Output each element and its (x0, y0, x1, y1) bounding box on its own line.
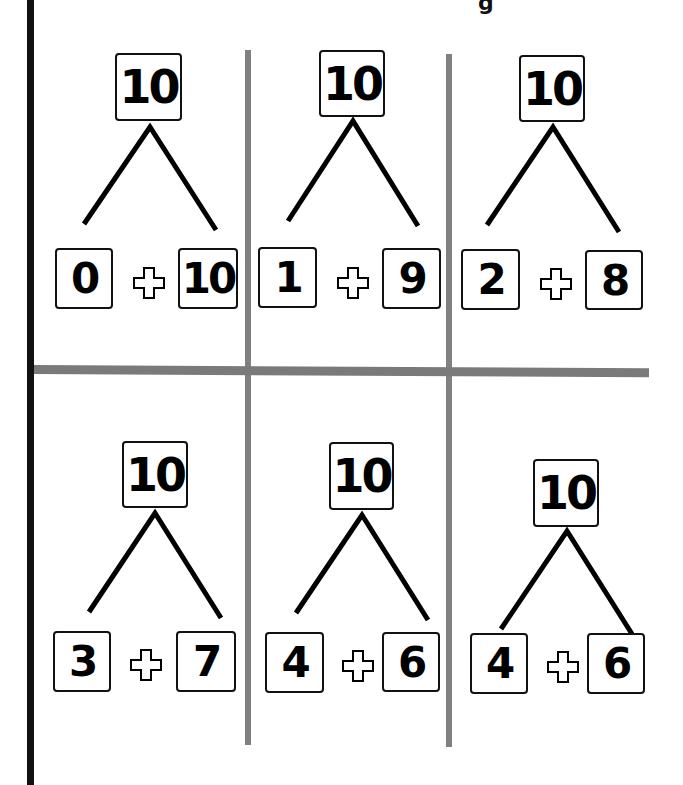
plus-icon (129, 648, 163, 682)
whole-box: 10 (319, 50, 385, 117)
part-b-box: 7 (176, 631, 236, 692)
part-b-box: 6 (587, 633, 645, 694)
plus-icon (132, 266, 166, 300)
grid-divider-vertical-2 (446, 54, 452, 747)
grid-divider-horizontal (34, 365, 649, 377)
plus-icon (336, 266, 370, 300)
part-b-box: 9 (382, 248, 441, 309)
part-b-box: 8 (585, 250, 643, 310)
grid-divider-vertical-1 (245, 50, 251, 745)
part-a-box: 0 (55, 248, 113, 309)
part-a-box: 4 (265, 632, 324, 693)
whole-box: 10 (519, 55, 585, 122)
plus-icon (546, 650, 580, 684)
whole-box: 10 (115, 53, 182, 121)
whole-box: 10 (533, 459, 599, 527)
plus-icon (341, 649, 375, 683)
plus-icon (539, 267, 573, 301)
whole-box: 10 (122, 441, 188, 508)
part-a-box: 1 (258, 247, 317, 308)
part-a-box: 2 (461, 249, 520, 310)
left-margin-border (27, 0, 34, 785)
part-a-box: 3 (53, 631, 111, 692)
part-b-box: 10 (178, 248, 238, 309)
part-b-box: 6 (382, 632, 440, 692)
part-a-box: 4 (470, 633, 528, 694)
whole-box: 10 (329, 442, 394, 510)
title-fragment: g (478, 0, 494, 15)
